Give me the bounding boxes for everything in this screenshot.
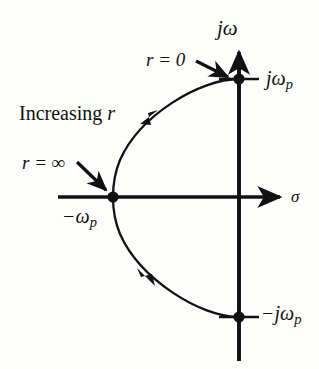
root-locus-figure: jω jωp σ −jωp −ωp r = 0 r = ∞ Increasing… xyxy=(0,0,319,369)
pole-breakin-label-sub: p xyxy=(90,214,97,230)
imaginary-axis-label: jω xyxy=(217,18,238,39)
pole-lower-label: −jωp xyxy=(261,303,301,326)
pole-upper-label-sub: p xyxy=(286,76,293,92)
r-infinity-arrow xyxy=(77,162,106,190)
increasing-r-annotation: Increasing r xyxy=(19,103,115,123)
pole-breakin-label-main: −ω xyxy=(62,205,90,227)
pole-lower xyxy=(219,311,259,322)
pole-breakin xyxy=(107,191,118,202)
pole-lower-label-sub: p xyxy=(294,311,301,327)
pole-upper-label-main: jω xyxy=(266,67,286,89)
pole-lower-label-main: −jω xyxy=(261,302,294,324)
r-zero-annotation: r = 0 xyxy=(146,50,185,69)
pole-breakin-label: −ωp xyxy=(62,206,97,229)
pole-upper-label: jωp xyxy=(266,68,293,91)
locus-arc-lower xyxy=(113,197,239,317)
r-infinity-annotation: r = ∞ xyxy=(22,153,65,172)
r-zero-arrow xyxy=(196,61,228,77)
real-axis-label: σ xyxy=(291,188,299,205)
locus-arc-upper xyxy=(113,79,239,197)
